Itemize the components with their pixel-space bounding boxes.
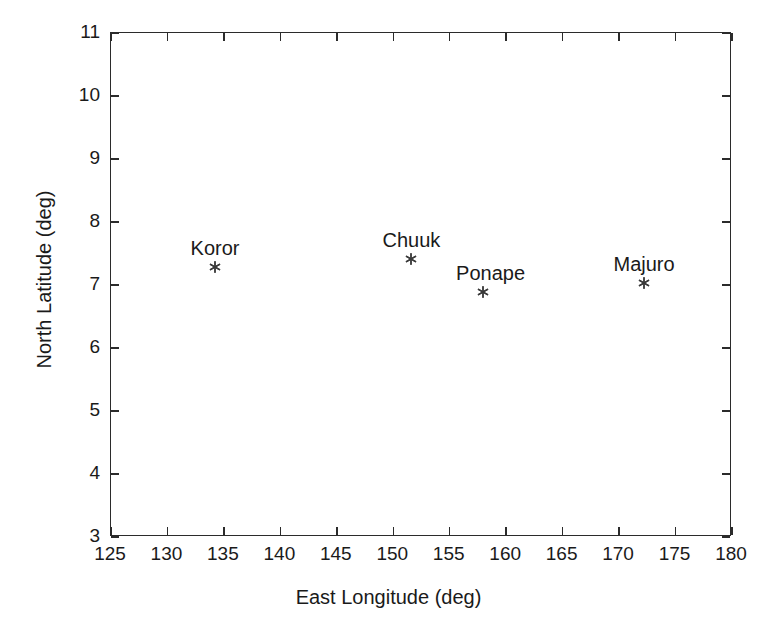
data-point-label: Chuuk	[383, 229, 441, 251]
x-axis-tick	[675, 527, 676, 535]
y-axis-tick	[722, 473, 730, 474]
x-axis-tick	[280, 33, 281, 41]
y-axis-tick-label: 8	[60, 210, 100, 232]
y-axis-tick	[722, 536, 730, 537]
x-axis-tick	[562, 527, 563, 535]
x-axis-tick-label: 155	[419, 543, 479, 565]
y-axis-tick	[111, 95, 119, 96]
x-axis-tick	[280, 527, 281, 535]
x-axis-tick	[223, 527, 224, 535]
x-axis-tick	[167, 527, 168, 535]
x-axis-tick	[731, 527, 732, 535]
y-axis-tick-label: 4	[60, 462, 100, 484]
asterisk-marker-icon	[207, 259, 223, 275]
x-axis-tick	[336, 527, 337, 535]
y-axis-tick-label: 10	[60, 84, 100, 106]
x-axis-tick-label: 175	[645, 543, 705, 565]
y-axis-tick	[111, 221, 119, 222]
asterisk-marker-icon	[636, 275, 652, 291]
x-axis-tick	[167, 33, 168, 41]
x-axis-tick	[110, 33, 111, 41]
y-axis-tick	[111, 284, 119, 285]
x-axis-tick	[449, 33, 450, 41]
x-axis-tick	[618, 527, 619, 535]
y-axis-tick-label: 9	[60, 147, 100, 169]
data-point-label: Koror	[191, 237, 240, 259]
y-axis-tick	[722, 32, 730, 33]
y-axis-tick	[111, 158, 119, 159]
y-axis-tick-label: 3	[60, 525, 100, 547]
y-axis-tick	[722, 221, 730, 222]
x-axis-tick	[110, 527, 111, 535]
x-axis-tick	[393, 33, 394, 41]
y-axis-tick	[722, 158, 730, 159]
y-axis-tick	[722, 95, 730, 96]
x-axis-tick	[223, 33, 224, 41]
x-axis-tick-label: 160	[475, 543, 535, 565]
asterisk-marker-icon	[475, 284, 491, 300]
x-axis-tick-label: 180	[701, 543, 761, 565]
y-axis-tick	[111, 473, 119, 474]
y-axis-tick	[722, 410, 730, 411]
y-axis-title: North Latitude (deg)	[33, 28, 56, 532]
y-axis-tick-label: 11	[60, 21, 100, 43]
x-axis-tick-label: 130	[136, 543, 196, 565]
x-axis-tick	[731, 33, 732, 41]
y-axis-tick-label: 6	[60, 336, 100, 358]
y-axis-tick	[111, 536, 119, 537]
y-axis-tick-label: 7	[60, 273, 100, 295]
x-axis-tick-label: 145	[306, 543, 366, 565]
data-point-label: Majuro	[613, 253, 674, 275]
x-axis-tick	[505, 527, 506, 535]
y-axis-tick	[111, 410, 119, 411]
x-axis-tick	[393, 527, 394, 535]
x-axis-tick-label: 165	[532, 543, 592, 565]
x-axis-tick-label: 170	[588, 543, 648, 565]
x-axis-tick	[336, 33, 337, 41]
x-axis-tick	[449, 527, 450, 535]
x-axis-tick	[675, 33, 676, 41]
x-axis-title: East Longitude (deg)	[0, 586, 777, 609]
x-axis-tick-label: 150	[362, 543, 422, 565]
x-axis-tick	[562, 33, 563, 41]
y-axis-tick	[111, 347, 119, 348]
scatter-plot-figure: 1251301351401451501551601651701751803456…	[0, 0, 777, 639]
x-axis-tick-label: 140	[249, 543, 309, 565]
x-axis-tick	[618, 33, 619, 41]
asterisk-marker-icon	[403, 251, 419, 267]
y-axis-tick	[722, 284, 730, 285]
y-axis-tick	[111, 32, 119, 33]
x-axis-tick	[505, 33, 506, 41]
x-axis-tick-label: 135	[193, 543, 253, 565]
y-axis-tick	[722, 347, 730, 348]
data-point-label: Ponape	[456, 262, 525, 284]
y-axis-tick-label: 5	[60, 399, 100, 421]
